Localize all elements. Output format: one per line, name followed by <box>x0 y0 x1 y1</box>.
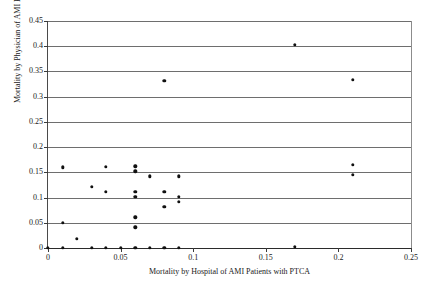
y-tick-4 <box>44 147 48 148</box>
x-tick-label-1: 0.05 <box>114 254 128 262</box>
data-point <box>104 190 107 193</box>
data-point <box>177 200 180 203</box>
data-point <box>148 246 151 249</box>
data-point <box>46 246 49 249</box>
plot-area: 00.050.10.150.20.250.30.350.40.4500.050.… <box>47 21 412 248</box>
gridline-y-6 <box>48 97 411 98</box>
gridline-y-9 <box>48 21 411 22</box>
x-tick-2 <box>193 248 194 252</box>
gridline-y-4 <box>48 147 411 148</box>
y-tick-8 <box>44 46 48 47</box>
x-tick-label-3: 0.15 <box>259 254 273 262</box>
y-tick-label-7: 0.35 <box>29 67 43 75</box>
scatter-chart-figure: 00.050.10.150.20.250.30.350.40.4500.050.… <box>0 0 431 291</box>
y-tick-label-6: 0.3 <box>33 93 43 101</box>
data-point <box>351 163 354 166</box>
gridline-y-3 <box>48 172 411 173</box>
data-point <box>148 175 151 178</box>
y-tick-1 <box>44 223 48 224</box>
data-point <box>133 165 136 168</box>
y-tick-label-2: 0.1 <box>33 194 43 202</box>
data-point <box>133 226 136 229</box>
data-point <box>162 205 165 208</box>
y-tick-9 <box>44 21 48 22</box>
data-point <box>61 246 64 249</box>
data-point <box>90 185 93 188</box>
data-point <box>351 173 354 176</box>
data-point <box>75 237 78 240</box>
data-point <box>119 246 122 249</box>
data-point <box>104 246 107 249</box>
gridline-y-0 <box>48 248 411 249</box>
y-tick-label-4: 0.2 <box>33 143 43 151</box>
data-point <box>177 175 180 178</box>
y-tick-label-3: 0.15 <box>29 168 43 176</box>
y-tick-label-8: 0.4 <box>33 42 43 50</box>
y-tick-7 <box>44 71 48 72</box>
data-point <box>162 79 165 82</box>
y-tick-label-5: 0.25 <box>29 118 43 126</box>
x-tick-3 <box>266 248 267 252</box>
x-axis-title: Mortality by Hospital of AMI Patients wi… <box>47 268 412 276</box>
data-point <box>162 246 165 249</box>
gridline-y-7 <box>48 71 411 72</box>
data-point <box>133 216 136 219</box>
y-tick-label-1: 0.05 <box>29 219 43 227</box>
y-tick-6 <box>44 97 48 98</box>
x-tick-label-0: 0 <box>46 254 50 262</box>
y-tick-label-0: 0 <box>39 244 43 252</box>
y-tick-5 <box>44 122 48 123</box>
x-tick-4 <box>338 248 339 252</box>
data-point <box>90 246 93 249</box>
data-point <box>162 190 165 193</box>
x-tick-5 <box>411 248 412 252</box>
data-point <box>133 246 136 249</box>
data-point <box>61 166 64 169</box>
gridline-y-1 <box>48 223 411 224</box>
x-tick-label-4: 0.2 <box>333 254 343 262</box>
y-tick-3 <box>44 172 48 173</box>
gridline-y-2 <box>48 198 411 199</box>
x-tick-label-5: 0.25 <box>404 254 418 262</box>
data-point <box>104 165 107 168</box>
data-point <box>177 246 180 249</box>
data-point <box>351 78 354 81</box>
y-axis-title: Mortality by Physician of AMI Patients w… <box>11 0 25 134</box>
gridline-y-8 <box>48 46 411 47</box>
data-point <box>61 221 64 224</box>
y-tick-label-9: 0.45 <box>29 17 43 25</box>
data-point <box>133 190 136 193</box>
gridline-y-5 <box>48 122 411 123</box>
x-tick-label-2: 0.1 <box>188 254 198 262</box>
y-tick-2 <box>44 198 48 199</box>
